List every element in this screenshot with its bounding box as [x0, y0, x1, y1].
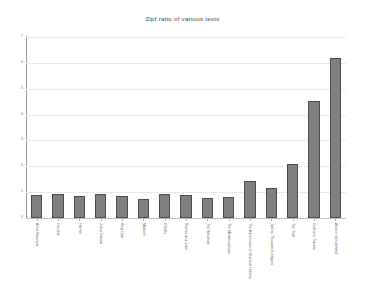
- x-axis-tick-label: The Adventures of Sherlock Holmes: [248, 223, 252, 279]
- bar: [52, 194, 63, 218]
- bar: [74, 196, 85, 218]
- x-axis-tick-label: Candide: [56, 223, 60, 236]
- bar: [287, 164, 298, 218]
- x-tickmark: [79, 219, 80, 221]
- y-tick-label: 1: [21, 190, 23, 194]
- bar: [330, 58, 341, 218]
- x-axis-tick-label: The Sandman: [205, 223, 209, 245]
- y-tick-label: 0: [21, 216, 23, 220]
- x-tickmark: [58, 219, 59, 221]
- x-tickmark: [143, 219, 144, 221]
- x-tickmark: [293, 219, 294, 221]
- x-tickmark: [250, 219, 251, 221]
- bar: [202, 198, 213, 218]
- bar: [31, 195, 42, 218]
- x-axis-tick-label: Twenty Thousand Leagues: [269, 223, 273, 265]
- bar: [116, 196, 127, 218]
- x-tickmark: [271, 219, 272, 221]
- y-tick-label: 7: [21, 35, 23, 39]
- bar: [95, 194, 106, 218]
- x-axis-tick-label: Julius Caesar: [99, 223, 103, 244]
- x-tickmark: [207, 219, 208, 221]
- x-tickmark: [335, 219, 336, 221]
- y-tick-label: 3: [21, 139, 23, 143]
- bar: [180, 195, 191, 218]
- x-tickmark: [186, 219, 187, 221]
- x-axis-tick-label: Alice in Wonderland: [333, 223, 337, 254]
- plot-area: 01234567: [26, 37, 346, 218]
- x-axis-tick-label: Hamlet: [77, 223, 81, 234]
- x-tickmark: [314, 219, 315, 221]
- x-tickmark: [37, 219, 38, 221]
- x-tickmark: [229, 219, 230, 221]
- y-tick-label: 2: [21, 164, 23, 168]
- bar: [159, 194, 170, 218]
- x-axis-tick-label: Gulliver's Travels: [312, 223, 316, 250]
- x-axis-tick-label: King Lear: [120, 223, 124, 238]
- x-tickmark: [101, 219, 102, 221]
- x-axis-tick-label: Anna Karenina: [35, 223, 39, 246]
- chart-container: Zipf ratio of various texts 01234567 Ann…: [0, 0, 365, 294]
- bar: [266, 188, 277, 218]
- x-tickmark: [165, 219, 166, 221]
- bar: [223, 197, 234, 218]
- bars-group: [26, 37, 346, 218]
- bar: [308, 101, 319, 218]
- x-axis-tick-label: Macbeth: [141, 223, 145, 236]
- y-tick-label: 6: [21, 61, 23, 65]
- x-axis-labels: Anna KareninaCandideHamletJulius CaesarK…: [26, 219, 346, 294]
- x-axis-tick-label: Romeo and Juliet: [184, 223, 188, 250]
- x-axis-tick-label: The Metamorphosis: [227, 223, 231, 254]
- bar: [138, 199, 149, 218]
- bar: [244, 181, 255, 218]
- x-axis-tick-label: Othello: [163, 223, 167, 234]
- x-axis-tick-label: The Trial: [291, 223, 295, 237]
- y-tick-label: 5: [21, 87, 23, 91]
- x-tickmark: [122, 219, 123, 221]
- y-tick-label: 4: [21, 113, 23, 117]
- chart-title: Zipf ratio of various texts: [0, 15, 365, 22]
